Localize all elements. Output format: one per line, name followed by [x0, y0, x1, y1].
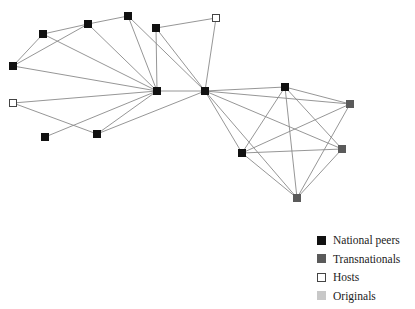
- edge: [43, 24, 88, 34]
- edge: [205, 91, 297, 198]
- edge: [13, 91, 157, 103]
- legend-label: National peers: [333, 234, 400, 246]
- edge: [285, 87, 297, 198]
- national-swatch-icon: [317, 236, 326, 245]
- edge: [205, 91, 342, 149]
- edge: [156, 28, 205, 91]
- legend-item-host: Hosts: [317, 268, 400, 287]
- edge: [97, 91, 205, 134]
- node-national: [154, 88, 161, 95]
- host-swatch-icon: [317, 273, 326, 282]
- node-transnational: [347, 101, 354, 108]
- edge: [205, 18, 216, 91]
- legend-item-original: Originals: [317, 287, 400, 306]
- edge: [156, 28, 157, 91]
- edge: [128, 16, 205, 91]
- node-national: [10, 63, 17, 70]
- legend-label: Hosts: [333, 271, 359, 283]
- node-transnational: [294, 195, 301, 202]
- legend-item-national: National peers: [317, 231, 400, 250]
- node-host: [213, 15, 220, 22]
- node-host: [10, 100, 17, 107]
- edge: [13, 34, 43, 66]
- transnational-swatch-icon: [317, 254, 326, 263]
- edge: [285, 87, 342, 149]
- node-national: [153, 25, 160, 32]
- node-transnational: [339, 146, 346, 153]
- edge: [242, 153, 297, 198]
- node-national: [94, 131, 101, 138]
- legend-item-transnational: Transnationals: [317, 250, 400, 269]
- edge: [97, 91, 157, 134]
- edge: [88, 16, 128, 24]
- edges: [13, 16, 350, 198]
- edge: [13, 24, 88, 66]
- node-national: [239, 150, 246, 157]
- edge: [43, 34, 157, 91]
- edge: [205, 91, 350, 104]
- edge: [205, 87, 285, 91]
- node-national: [40, 31, 47, 38]
- edge: [205, 91, 242, 153]
- edge: [156, 18, 216, 28]
- nodes: [10, 13, 354, 202]
- legend: National peers Transnationals Hosts Orig…: [317, 231, 400, 305]
- node-national: [42, 134, 49, 141]
- edge: [13, 103, 97, 134]
- original-swatch-icon: [317, 291, 326, 300]
- node-national: [202, 88, 209, 95]
- edge: [297, 149, 342, 198]
- node-national: [125, 13, 132, 20]
- node-national: [85, 21, 92, 28]
- legend-label: Originals: [333, 290, 376, 302]
- legend-label: Transnationals: [333, 253, 400, 265]
- node-national: [282, 84, 289, 91]
